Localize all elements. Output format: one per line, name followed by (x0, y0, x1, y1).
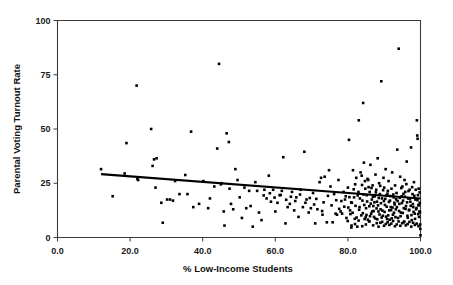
data-point (417, 187, 420, 190)
data-point (408, 208, 411, 211)
data-point (321, 213, 324, 216)
data-point (285, 198, 288, 201)
x-tick-label: 60.0 (267, 246, 285, 256)
data-point (338, 208, 341, 211)
data-point (354, 183, 357, 186)
data-point (386, 192, 389, 195)
data-point (375, 207, 378, 210)
data-point (394, 225, 397, 228)
data-point (398, 203, 401, 206)
data-point (331, 221, 334, 224)
data-point (282, 156, 285, 159)
data-point (395, 192, 398, 195)
data-point (230, 203, 233, 206)
data-point (381, 209, 384, 212)
x-tick-label: 40.0 (194, 246, 212, 256)
data-point (265, 197, 268, 200)
data-point (418, 191, 421, 194)
data-point (397, 220, 400, 223)
data-point (272, 188, 275, 191)
y-axis-ticks (54, 21, 58, 238)
data-point (335, 199, 338, 202)
y-tick-label: 0 (45, 233, 50, 243)
data-point (371, 184, 374, 187)
data-point (360, 214, 363, 217)
plot-canvas: 0255075100 0.020.040.060.080.0100.0 % Lo… (0, 0, 453, 285)
data-point (406, 216, 409, 219)
data-point (399, 215, 402, 218)
data-point (258, 211, 261, 214)
data-point (312, 192, 315, 195)
data-point (405, 183, 408, 186)
data-point (218, 63, 221, 66)
data-point (377, 204, 380, 207)
x-axis-tick-labels: 0.020.040.060.080.0100.0 (51, 246, 432, 256)
data-point (369, 215, 372, 218)
data-point (361, 225, 364, 228)
data-point (395, 198, 398, 201)
data-point (363, 204, 366, 207)
plot-frame (58, 21, 421, 238)
data-point (412, 203, 415, 206)
data-point (192, 206, 195, 209)
data-point (209, 197, 212, 200)
data-point (323, 175, 326, 178)
data-point (286, 206, 289, 209)
data-point (380, 80, 383, 83)
data-point (383, 200, 386, 203)
data-point (359, 197, 362, 200)
data-point (401, 222, 404, 225)
data-point (213, 185, 216, 188)
data-point (399, 224, 402, 227)
data-point (340, 200, 343, 203)
data-point (344, 195, 347, 198)
data-point (417, 225, 420, 228)
data-point (150, 128, 153, 131)
data-point (251, 225, 254, 228)
data-point (416, 137, 419, 140)
data-point (384, 168, 387, 171)
data-point (418, 201, 421, 204)
data-point (241, 217, 244, 220)
data-point (405, 205, 408, 208)
data-point (353, 196, 356, 199)
data-point (365, 223, 368, 226)
data-point (345, 217, 348, 220)
data-point (366, 200, 369, 203)
data-point (228, 141, 231, 144)
data-point (414, 188, 417, 191)
data-point (419, 228, 422, 231)
data-point (254, 181, 257, 184)
data-point (293, 209, 296, 212)
data-point (387, 190, 390, 193)
data-point (172, 199, 175, 202)
data-point (410, 214, 413, 217)
data-point (416, 134, 419, 137)
data-point (347, 186, 350, 189)
data-point (305, 198, 308, 201)
y-tick-label: 100 (35, 16, 50, 26)
data-point (419, 211, 422, 214)
data-point (364, 187, 367, 190)
data-point (359, 171, 362, 174)
data-point (403, 179, 406, 182)
data-point (413, 181, 416, 184)
data-point (410, 225, 413, 228)
data-point (267, 174, 270, 177)
data-point (354, 223, 357, 226)
data-point (313, 203, 316, 206)
data-point (397, 217, 400, 220)
data-point (404, 208, 407, 211)
data-point (337, 179, 340, 182)
data-point (289, 203, 292, 206)
data-point (393, 211, 396, 214)
data-point (249, 205, 252, 208)
data-point (365, 207, 368, 210)
data-point (111, 195, 114, 198)
data-point (380, 216, 383, 219)
data-point (401, 202, 404, 205)
data-point (357, 219, 360, 222)
x-tick-label: 80.0 (339, 246, 357, 256)
data-point (419, 234, 422, 237)
data-point (414, 218, 417, 221)
